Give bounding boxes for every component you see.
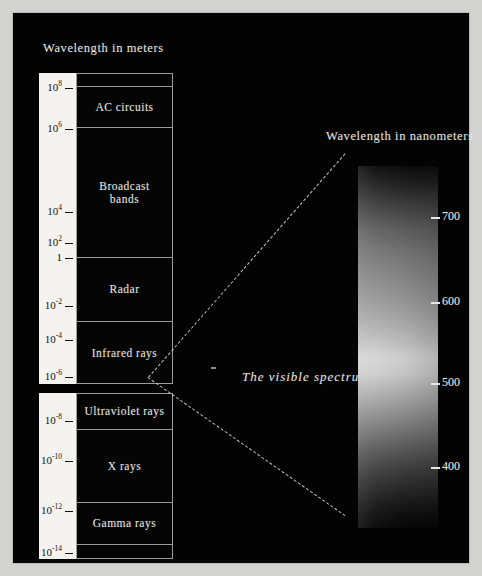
spectrum-band: Ultraviolet rays (77, 394, 172, 430)
meters-tick: 10-10 (29, 452, 73, 466)
tick-dash-icon (65, 553, 73, 554)
spectrum-band: Radar (77, 258, 172, 322)
spectrum-band-label: Radar (110, 283, 140, 296)
tick-dash-icon (65, 212, 73, 213)
tick-dash-icon (65, 129, 73, 130)
magnifier-ray-line (147, 377, 345, 516)
meters-tick-label: 106 (47, 122, 62, 134)
tick-dash-icon (431, 383, 440, 385)
meters-tick: 1 (29, 251, 73, 263)
meters-tick: 106 (29, 120, 73, 134)
meters-tick-label: 10-6 (45, 370, 62, 382)
meters-tick-label: 10-2 (45, 299, 62, 311)
nanometers-tick-label: 500 (442, 375, 460, 389)
meters-tick: 10-4 (29, 331, 73, 345)
meters-tick: 104 (29, 203, 73, 217)
meters-tick-label: 10-4 (45, 333, 62, 345)
nanometers-tick-label: 400 (442, 459, 460, 473)
visible-spectrum-caption: The visible spectrum (242, 369, 370, 385)
nanometers-tick-label: 600 (442, 294, 460, 308)
tick-dash-icon (65, 258, 73, 259)
tick-dash-icon (431, 467, 440, 469)
spectrum-band-label: Broadcastbands (99, 180, 149, 206)
spectrum-band-label: X rays (108, 460, 141, 473)
spectrum-band (77, 545, 172, 560)
meters-tick: 108 (29, 79, 73, 93)
tick-dash-icon (65, 243, 73, 244)
meters-tick-label: 104 (47, 205, 62, 217)
meters-tick-label: 10-8 (45, 414, 62, 426)
spectrum-band-stack-lower: Ultraviolet raysX raysGamma rays (76, 393, 173, 559)
meters-tick: 10-2 (29, 297, 73, 311)
magnifier-ray-line (148, 153, 346, 378)
meters-tick: 10-6 (29, 368, 73, 382)
meters-tick: 10-14 (29, 544, 73, 558)
meters-tick-label: 102 (47, 236, 62, 248)
nanometers-tick: 400 (442, 459, 460, 474)
meters-tick: 10-8 (29, 412, 73, 426)
meters-tick-label: 10-14 (41, 546, 62, 558)
spectrum-band: Infrared rays (77, 322, 172, 385)
tick-dash-icon (65, 511, 73, 512)
figure-panel: Wavelength in meters Wavelength in nanom… (13, 13, 469, 563)
spectrum-band-label: AC circuits (95, 101, 153, 114)
meters-tick-label: 10-10 (41, 454, 62, 466)
nanometers-tick-label: 700 (442, 209, 460, 223)
figure-root: Wavelength in meters Wavelength in nanom… (0, 0, 482, 576)
tick-dash-icon (65, 88, 73, 89)
spectrum-band: X rays (77, 430, 172, 503)
meters-tick: 102 (29, 234, 73, 248)
spectrum-band: Gamma rays (77, 503, 172, 545)
tick-dash-icon (65, 377, 73, 378)
tick-dash-icon (431, 302, 440, 304)
meters-tick-label: 108 (47, 81, 62, 93)
spectrum-sheen-overlay (358, 166, 438, 528)
spectrum-band (77, 74, 172, 87)
tick-dash-icon (65, 461, 73, 462)
nanometers-axis-title: Wavelength in nanometers (326, 129, 473, 144)
meters-tick-label: 10-12 (41, 504, 62, 516)
spectrum-band-label: Gamma rays (93, 517, 156, 530)
meters-tick: 10-12 (29, 502, 73, 516)
spectrum-band-stack-upper: AC circuitsBroadcastbandsRadarInfrared r… (76, 73, 173, 384)
spectrum-band: Broadcastbands (77, 128, 172, 258)
visible-spectrum-strip (358, 166, 438, 528)
nanometers-tick: 700 (442, 209, 460, 224)
nanometers-tick: 500 (442, 375, 460, 390)
spectrum-band-label: Ultraviolet rays (85, 405, 165, 418)
dot-mark (211, 367, 216, 369)
tick-dash-icon (65, 306, 73, 307)
spectrum-band-label: Infrared rays (92, 347, 158, 360)
meters-tick-label: 1 (57, 251, 63, 263)
tick-dash-icon (65, 421, 73, 422)
spectrum-band: AC circuits (77, 87, 172, 128)
nanometers-tick: 600 (442, 294, 460, 309)
tick-dash-icon (431, 217, 440, 219)
meters-axis-title: Wavelength in meters (43, 41, 164, 56)
tick-dash-icon (65, 340, 73, 341)
